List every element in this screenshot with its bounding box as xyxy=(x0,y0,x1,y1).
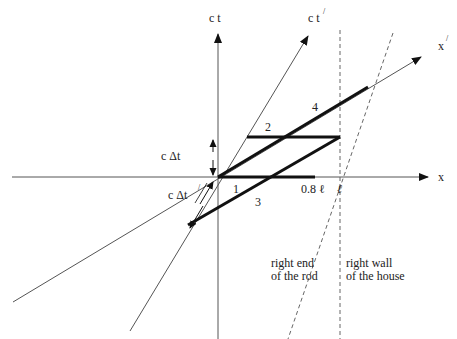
wall-tick: ℓ xyxy=(337,182,342,196)
x-prime-mark: / xyxy=(446,34,449,43)
x-prime-axis-label: x xyxy=(438,39,444,53)
segment-4-label: 4 xyxy=(312,100,318,114)
spacetime-diagram: c t c t / x x / c Δt c Δt / 1 2 3 4 0.8 … xyxy=(0,0,457,339)
segment-3-label: 3 xyxy=(255,195,261,209)
x-axis-label: x xyxy=(438,170,444,184)
c-delta-t-label: c Δt xyxy=(161,149,181,163)
wall-note-2: of the house xyxy=(346,269,405,283)
rod-length-tick: 0.8 ℓ xyxy=(301,182,325,196)
segment-2-label: 2 xyxy=(265,120,271,134)
rod-end-note-1: right end xyxy=(271,256,314,270)
c-delta-t-prime-mark: / xyxy=(198,183,201,192)
ct-prime-axis xyxy=(130,36,308,331)
ct-axis-label: c t xyxy=(209,11,221,25)
wall-note-1: right wall xyxy=(346,256,393,270)
ct-prime-mark: / xyxy=(323,7,326,16)
ct-prime-axis-label: c t xyxy=(308,11,320,25)
c-delta-t-prime-label: c Δt xyxy=(168,188,188,202)
rod-end-note-2: of the rod xyxy=(271,269,318,283)
c-delta-t-prime-guide xyxy=(195,183,207,203)
segment-1-label: 1 xyxy=(233,182,239,196)
